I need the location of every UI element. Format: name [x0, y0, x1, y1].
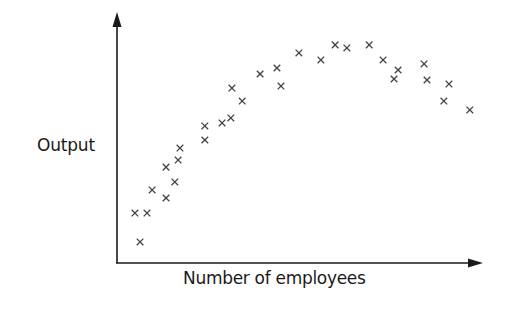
data-point-cross-icon — [228, 115, 235, 122]
data-point-cross-icon — [467, 107, 474, 114]
data-point-cross-icon — [229, 85, 236, 92]
data-points — [132, 42, 473, 246]
data-point-cross-icon — [149, 187, 156, 194]
data-point-cross-icon — [175, 157, 182, 164]
data-point-cross-icon — [132, 210, 139, 217]
data-point-cross-icon — [395, 67, 402, 74]
data-point-cross-icon — [366, 42, 373, 49]
data-point-cross-icon — [163, 195, 170, 202]
data-point-cross-icon — [344, 45, 351, 52]
y-axis — [113, 12, 122, 263]
data-point-cross-icon — [421, 61, 428, 68]
data-point-cross-icon — [441, 98, 448, 105]
data-point-cross-icon — [219, 120, 226, 127]
data-point-cross-icon — [137, 239, 144, 246]
data-point-cross-icon — [257, 71, 264, 78]
data-point-cross-icon — [144, 210, 151, 217]
data-point-cross-icon — [332, 42, 339, 49]
data-point-cross-icon — [278, 83, 285, 90]
data-point-cross-icon — [239, 98, 246, 105]
data-point-cross-icon — [172, 179, 179, 186]
x-axis-arrow-icon — [468, 259, 483, 268]
data-point-cross-icon — [163, 164, 170, 171]
data-point-cross-icon — [202, 123, 209, 130]
y-axis-arrow-icon — [113, 12, 122, 27]
y-axis-label: Output — [37, 135, 95, 155]
data-point-cross-icon — [177, 145, 184, 152]
data-point-cross-icon — [424, 77, 431, 84]
x-axis-label: Number of employees — [183, 268, 366, 288]
data-point-cross-icon — [318, 57, 325, 64]
x-axis — [116, 259, 483, 268]
data-point-cross-icon — [296, 50, 303, 57]
scatter-plot — [0, 0, 508, 313]
data-point-cross-icon — [391, 76, 398, 83]
data-point-cross-icon — [274, 65, 281, 72]
data-point-cross-icon — [380, 57, 387, 64]
data-point-cross-icon — [446, 81, 453, 88]
data-point-cross-icon — [202, 137, 209, 144]
